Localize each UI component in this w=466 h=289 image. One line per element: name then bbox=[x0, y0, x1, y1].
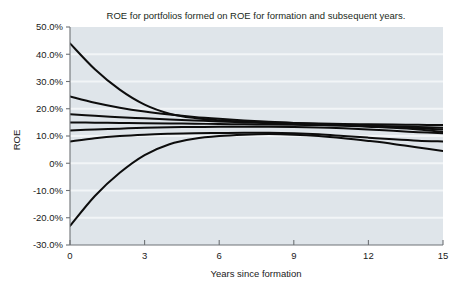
chart-canvas: 50.0%40.0%30.0%20.0%10.0%0%-10.0%-20.0%-… bbox=[0, 0, 466, 289]
y-tick-label: 40.0% bbox=[36, 49, 63, 60]
y-tick-label: 0% bbox=[49, 158, 63, 169]
x-tick-label: 9 bbox=[291, 250, 296, 261]
y-axis-title: ROE bbox=[11, 130, 22, 151]
roe-chart: 50.0%40.0%30.0%20.0%10.0%0%-10.0%-20.0%-… bbox=[0, 0, 466, 289]
x-tick-label: 12 bbox=[363, 250, 374, 261]
chart-title: ROE for portfolios formed on ROE for for… bbox=[107, 10, 406, 21]
y-tick-label: 50.0% bbox=[36, 21, 63, 32]
y-tick-label: 10.0% bbox=[36, 130, 63, 141]
x-tick-label: 3 bbox=[142, 250, 147, 261]
y-axis-tick-labels: 50.0%40.0%30.0%20.0%10.0%0%-10.0%-20.0%-… bbox=[33, 21, 64, 250]
y-tick-label: -10.0% bbox=[33, 185, 64, 196]
x-tick-label: 0 bbox=[67, 250, 72, 261]
y-tick-label: -20.0% bbox=[33, 212, 64, 223]
x-tick-label: 6 bbox=[217, 250, 222, 261]
y-tick-label: 30.0% bbox=[36, 76, 63, 87]
y-tick-label: -30.0% bbox=[33, 239, 64, 250]
x-axis-title: Years since formation bbox=[210, 268, 301, 279]
y-tick-label: 20.0% bbox=[36, 103, 63, 114]
x-tick-label: 15 bbox=[438, 250, 449, 261]
